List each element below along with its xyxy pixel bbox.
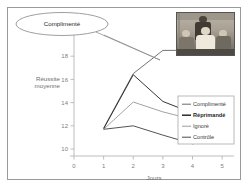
legend-label-3: Contrôle (193, 134, 214, 140)
chart-card: 101214161820012345RéussitemoyenneJoursCo… (7, 7, 241, 180)
y-axis-title-line1: Réussite (36, 75, 61, 82)
y-tick-label: 18 (61, 53, 68, 59)
y-axis-title-line2: moyenne (35, 82, 61, 89)
x-tick-label: 2 (132, 163, 136, 169)
callout-label: Complimenté (44, 20, 81, 27)
callout-tail (96, 32, 160, 60)
x-tick-label: 0 (72, 163, 76, 169)
legend-label-1: Réprimandé (193, 112, 225, 118)
x-tick-label: 5 (220, 163, 224, 169)
legend-label-2: Ignoré (193, 123, 209, 129)
legend-label-0: Complimenté (193, 101, 226, 107)
y-tick-label: 12 (61, 123, 68, 129)
classroom-photo (176, 12, 235, 56)
y-tick-label: 14 (61, 100, 68, 106)
y-tick-label: 16 (61, 77, 68, 83)
x-tick-label: 3 (161, 163, 165, 169)
x-tick-label: 1 (102, 163, 106, 169)
x-tick-label: 4 (191, 163, 195, 169)
x-axis-title: Jours (146, 174, 161, 181)
y-tick-label: 10 (61, 146, 68, 152)
